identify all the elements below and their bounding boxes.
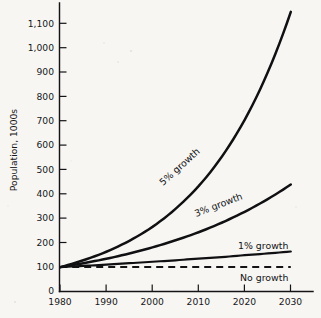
x-tick-label-2000: 2000 xyxy=(141,296,165,307)
y-tick-label-500: 500 xyxy=(36,164,54,175)
y-tick-label-400: 400 xyxy=(36,188,54,199)
y-tick-label-1000: 1,000 xyxy=(28,42,54,53)
x-tick-label-2030: 2030 xyxy=(279,296,303,307)
series-label-no-growth: No growth xyxy=(240,272,288,283)
y-tick-label-600: 600 xyxy=(36,139,54,150)
x-tick-label-2010: 2010 xyxy=(187,296,211,307)
y-tick-label-800: 800 xyxy=(36,91,54,102)
population-growth-chart: 1,100 1,000 900 800 700 600 500 400 300 … xyxy=(0,0,321,318)
y-tick-label-300: 300 xyxy=(36,212,54,223)
y-tick-label-700: 700 xyxy=(36,115,54,126)
y-tick-label-100: 100 xyxy=(36,261,54,272)
chart-canvas: 1,100 1,000 900 800 700 600 500 400 300 … xyxy=(0,0,321,318)
y-axis-title: Population, 1000s xyxy=(8,109,19,191)
x-tick-label-1990: 1990 xyxy=(94,296,118,307)
x-tick-label-2020: 2020 xyxy=(233,296,257,307)
series-label-1-percent: 1% growth xyxy=(238,240,289,251)
y-tick-label-1100: 1,100 xyxy=(28,18,54,29)
y-tick-label-0: 0 xyxy=(48,285,54,296)
y-tick-label-900: 900 xyxy=(36,66,54,77)
x-tick-label-1980: 1980 xyxy=(48,296,72,307)
y-tick-label-200: 200 xyxy=(36,237,54,248)
